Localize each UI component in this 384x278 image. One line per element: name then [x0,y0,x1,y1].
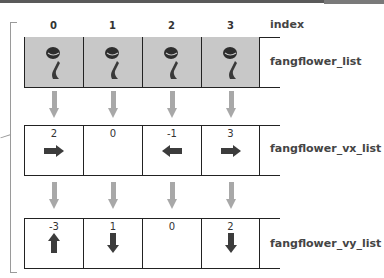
vy-cell-2: 0 [142,218,201,268]
vy-value: 2 [202,221,259,232]
arrow-right-icon [221,145,241,157]
vx-cell-2: -1 [142,125,201,175]
vy-value: -3 [25,221,83,232]
fangflower-cell-1 [83,37,142,87]
fangflower-icon [44,45,64,81]
index-3: 3 [201,20,260,31]
vy-cell-3: 2 [201,218,260,268]
flow-arrow-down-icon [49,182,59,210]
vx-value: 3 [202,128,259,139]
arrow-down-icon [107,233,119,253]
fangflower-cell-0 [24,37,83,87]
group-bracket [10,22,17,273]
flow-arrow-down-icon [108,91,118,119]
flow-arrow-down-icon [226,182,236,210]
vx-value: -1 [143,128,201,139]
flow-arrow-down-icon [167,182,177,210]
top-border-accent [324,0,384,4]
vx-cell-0: 2 [24,125,83,175]
vy-value: 0 [143,221,201,232]
fangflower-icon [221,45,241,81]
vy-cell-0: -3 [24,218,83,268]
fangflower-vy-list-label: fangflower_vy_list [270,237,381,250]
flow-arrow-down-icon [108,182,118,210]
fangflower-cell-3 [201,37,260,87]
index-1: 1 [83,20,142,31]
row-bottom-line [24,268,280,269]
vx-value: 0 [84,128,142,139]
flow-arrow-down-icon [226,91,236,119]
arrow-left-icon [162,145,182,157]
row-bottom-line [24,87,280,88]
fangflower-icon [162,45,182,81]
vy-cell-1: 1 [83,218,142,268]
arrow-down-icon [225,233,237,253]
flow-arrow-down-icon [49,91,59,119]
arrow-up-icon [48,233,60,253]
arrow-right-icon [44,145,64,157]
index-label: index [270,18,304,31]
fangflower-vx-list-label: fangflower_vx_list [270,142,381,155]
vx-cell-3: 3 [201,125,260,175]
row-bottom-line [24,175,280,176]
vx-cell-1: 0 [83,125,142,175]
flow-arrow-down-icon [167,91,177,119]
vy-value: 1 [84,221,142,232]
vx-value: 2 [25,128,83,139]
fangflower-cell-2 [142,37,201,87]
index-2: 2 [142,20,201,31]
index-0: 0 [24,20,83,31]
fangflower-list-label: fangflower_list [270,55,362,68]
fangflower-icon [103,45,123,81]
